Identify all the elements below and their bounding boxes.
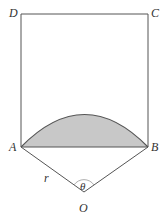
- label-a: A: [8, 140, 17, 154]
- label-o: O: [79, 201, 88, 215]
- label-c: C: [151, 6, 160, 20]
- radius-ob: [84, 147, 148, 192]
- geometry-diagram: D C A B O r θ: [0, 0, 166, 219]
- label-d: D: [8, 6, 18, 20]
- radius-oa: [21, 147, 84, 192]
- label-b: B: [151, 140, 159, 154]
- label-theta: θ: [80, 180, 86, 192]
- label-r: r: [44, 171, 49, 185]
